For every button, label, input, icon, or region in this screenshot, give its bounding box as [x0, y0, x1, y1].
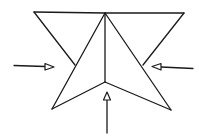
origami-diagram — [0, 0, 199, 136]
push-left-arrow-icon — [14, 64, 54, 71]
push-bottom-arrow-icon — [104, 92, 111, 133]
top-edge — [34, 12, 184, 13]
left-arm-outer-edge — [52, 13, 105, 109]
push-right-arrow-icon — [152, 64, 193, 71]
right-flap-edge — [143, 13, 184, 65]
left-flap-edge — [34, 12, 75, 65]
